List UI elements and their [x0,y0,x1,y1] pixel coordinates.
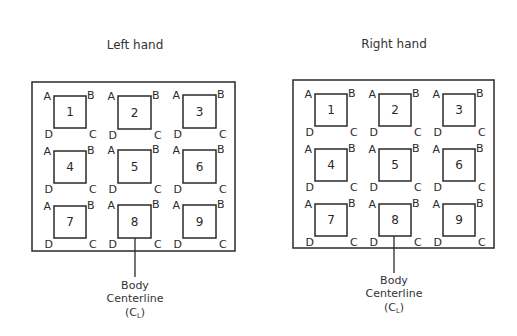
grid-cell-5: 5ABCD [368,142,422,194]
grid-cell-5: 5ABCD [107,143,162,196]
corner-label-b: B [152,143,160,156]
corner-label-c: C [414,181,422,194]
cell-number: 4 [327,158,335,172]
cell-number: 9 [196,215,204,229]
corner-label-c: C [219,238,227,251]
corner-label-b: B [87,144,95,157]
corner-label-b: B [348,87,356,100]
corner-label-d: D [109,183,117,196]
symbol-open: (C [384,301,396,314]
corner-label-a: A [304,88,312,101]
corner-label-d: D [45,128,53,141]
cell-number: 7 [327,213,335,227]
corner-label-d: D [370,181,378,194]
corner-label-b: B [87,89,95,102]
corner-label-d: D [434,126,442,139]
corner-label-c: C [219,128,227,141]
centerline-note-body: Body [380,274,408,287]
corner-label-c: C [154,183,162,196]
symbol-close: ) [141,306,145,319]
centerline-note-body: Body [121,279,149,292]
symbol-close: ) [400,301,404,314]
grid-cell-4: 4ABCD [304,142,358,194]
grid-cell-2: 2ABCD [107,89,162,142]
corner-label-d: D [174,128,182,141]
cell-number: 6 [196,160,204,174]
corner-label-c: C [89,128,97,141]
grid-cell-9: 9ABCD [432,197,486,249]
grid-cell-3: 3ABCD [432,87,486,139]
corner-label-a: A [107,90,115,103]
hand-grid-diagram: Left hand1ABCD2ABCD3ABCD4ABCD5ABCD6ABCD7… [0,0,517,336]
cell-number: 1 [66,105,74,119]
panel-title: Left hand [107,38,164,52]
corner-label-a: A [43,145,51,158]
grid-cell-7: 7ABCD [43,199,97,251]
corner-label-c: C [350,181,358,194]
corner-label-c: C [350,126,358,139]
corner-label-c: C [350,236,358,249]
corner-label-b: B [412,87,420,100]
cell-number: 7 [66,215,74,229]
corner-label-b: B [476,142,484,155]
corner-label-c: C [414,236,422,249]
cell-number: 1 [327,103,335,117]
centerline-note-centerline: Centerline [107,292,164,305]
left-hand-panel: Left hand1ABCD2ABCD3ABCD4ABCD5ABCD6ABCD7… [32,38,235,320]
grid-cell-2: 2ABCD [368,87,422,139]
corner-label-b: B [476,87,484,100]
cell-number: 2 [131,106,139,120]
corner-label-d: D [45,183,53,196]
cell-number: 8 [131,215,139,229]
grid-cell-6: 6ABCD [172,143,227,196]
corner-label-d: D [370,126,378,139]
corner-label-c: C [478,181,486,194]
corner-label-c: C [89,183,97,196]
corner-label-b: B [217,88,225,101]
corner-label-a: A [368,88,376,101]
cell-number: 5 [131,160,139,174]
corner-label-d: D [45,238,53,251]
corner-label-c: C [478,236,486,249]
corner-label-a: A [107,144,115,157]
corner-label-a: A [304,198,312,211]
cell-number: 9 [455,213,463,227]
grid-cell-4: 4ABCD [43,144,97,196]
cell-number: 4 [66,160,74,174]
symbol-open: (C [125,306,137,319]
corner-label-b: B [152,198,160,211]
right-hand-panel: Right hand1ABCD2ABCD3ABCD4ABCD5ABCD6ABCD… [293,37,494,315]
corner-label-d: D [434,236,442,249]
corner-label-d: D [306,181,314,194]
corner-label-a: A [432,88,440,101]
corner-label-b: B [412,197,420,210]
corner-label-b: B [152,89,160,102]
corner-label-d: D [109,238,117,251]
grid-cell-7: 7ABCD [304,197,358,249]
corner-label-c: C [89,238,97,251]
corner-label-c: C [154,129,162,142]
corner-label-d: D [370,236,378,249]
cell-number: 6 [455,158,463,172]
cell-number: 3 [455,103,463,117]
cell-number: 8 [391,213,399,227]
corner-label-a: A [304,143,312,156]
corner-label-a: A [368,143,376,156]
grid-cell-9: 9ABCD [172,198,227,251]
corner-label-b: B [476,197,484,210]
corner-label-b: B [412,142,420,155]
corner-label-a: A [43,200,51,213]
centerline-note-symbol: (CL) [125,306,145,320]
panel-title: Right hand [361,37,427,51]
corner-label-a: A [43,90,51,103]
corner-label-a: A [107,199,115,212]
corner-label-c: C [154,238,162,251]
corner-label-c: C [219,183,227,196]
corner-label-c: C [414,126,422,139]
corner-label-d: D [174,238,182,251]
cell-number: 5 [391,158,399,172]
centerline-note-centerline: Centerline [366,287,423,300]
centerline-note-symbol: (CL) [384,301,404,315]
grid-cell-6: 6ABCD [432,142,486,194]
corner-label-a: A [432,198,440,211]
